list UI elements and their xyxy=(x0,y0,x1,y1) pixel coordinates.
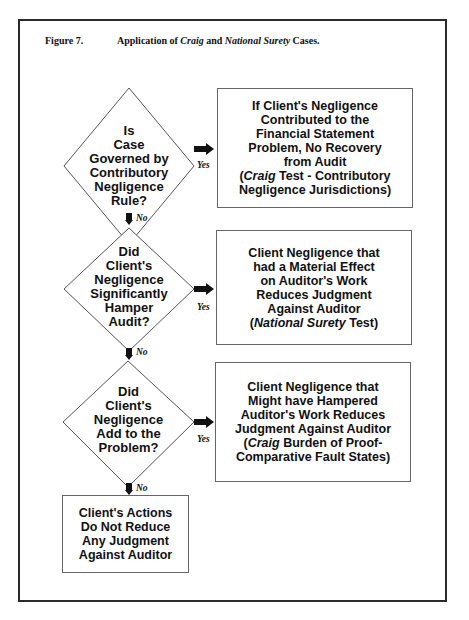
decision-text: DidClient'sNegligenceAdd to theProblem? xyxy=(62,385,195,455)
yes-arrow-icon xyxy=(194,283,214,295)
outcome-no-recovery: If Client's NegligenceContributed to the… xyxy=(217,88,413,208)
decision-hamper-audit: DidClient'sNegligenceSignificantlyHamper… xyxy=(63,227,195,352)
no-arrow-icon xyxy=(125,348,133,360)
no-label: No xyxy=(136,483,148,493)
no-arrow-icon xyxy=(125,213,133,225)
no-label: No xyxy=(136,213,148,223)
no-label: No xyxy=(136,347,148,357)
outcome-comparative-fault: Client Negligence thatMight have Hampere… xyxy=(215,362,411,482)
decision-text: IsCaseGoverned byContributoryNegligenceR… xyxy=(63,124,195,208)
yes-arrow-icon xyxy=(194,416,214,428)
yes-label: Yes xyxy=(197,160,210,170)
decision-text: DidClient'sNegligenceSignificantlyHamper… xyxy=(63,245,195,329)
no-arrow-icon xyxy=(125,483,133,495)
outcome-no-reduction: Client's ActionsDo Not ReduceAny Judgmen… xyxy=(62,495,189,573)
yes-label: Yes xyxy=(197,434,210,444)
yes-label: Yes xyxy=(197,302,210,312)
outcome-national-surety: Client Negligence thathad a Material Eff… xyxy=(216,230,412,345)
yes-arrow-icon xyxy=(194,143,214,155)
figure-number: Figure 7. xyxy=(45,35,83,46)
figure-title: Application of Craig and National Surety… xyxy=(117,35,320,46)
decision-add-to-problem: DidClient'sNegligenceAdd to theProblem? xyxy=(62,360,195,488)
